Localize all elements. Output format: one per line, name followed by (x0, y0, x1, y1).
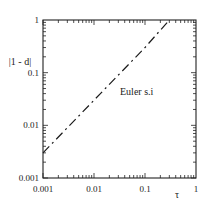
axis-ticks (43, 20, 196, 178)
x-tick-labels: 0.0010.010.11 (33, 184, 198, 194)
y-tick-label: 0.1 (28, 68, 39, 78)
plot-frame (43, 20, 196, 178)
x-tick-label: 0.1 (139, 184, 150, 194)
series-annotation: Euler s.i (120, 86, 154, 97)
y-axis-label: |1 - d| (9, 56, 31, 67)
y-tick-label: 1 (35, 15, 40, 25)
x-axis-label: τ (175, 189, 179, 200)
y-tick-label: 0.001 (19, 173, 39, 183)
x-tick-label: 0.01 (86, 184, 102, 194)
log-log-chart: |1 - d| τ Euler s.i 0.0010.010.11 0.0010… (0, 0, 214, 210)
x-tick-label: 1 (194, 184, 199, 194)
y-tick-labels: 0.0010.010.11 (19, 15, 39, 183)
y-tick-label: 0.01 (23, 120, 39, 130)
x-tick-label: 0.001 (33, 184, 53, 194)
